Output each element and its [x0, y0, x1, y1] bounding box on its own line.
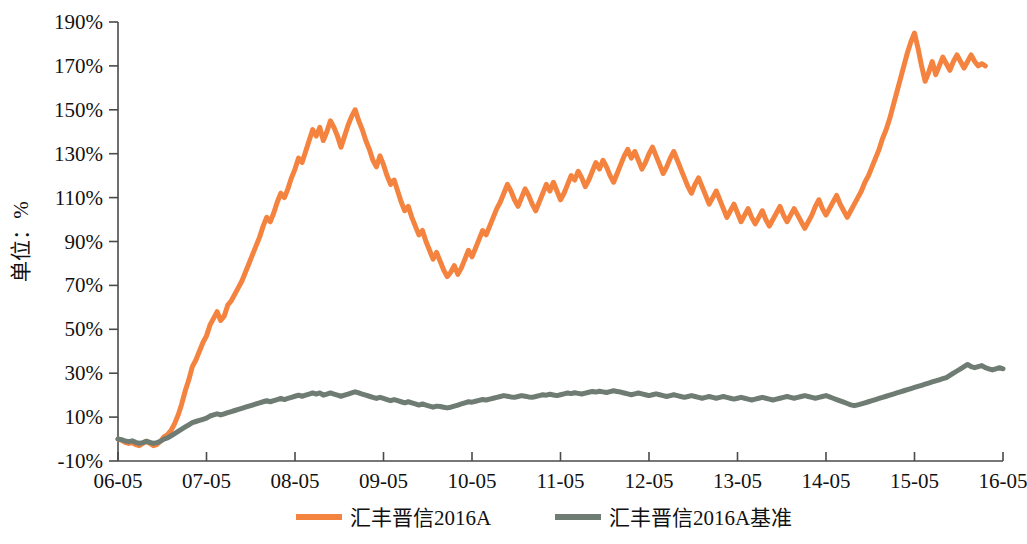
x-axis-ticks: 06-0507-0508-0509-0510-0511-0512-0513-05… [94, 452, 1027, 493]
x-tick-label: 16-05 [979, 469, 1027, 493]
y-tick-label: 190% [54, 10, 103, 34]
series-layer [118, 33, 1003, 446]
series-line-fund [118, 33, 985, 446]
chart-legend: 汇丰晋信2016A汇丰晋信2016A基准 [296, 506, 792, 530]
legend-label-fund[interactable]: 汇丰晋信2016A [350, 506, 492, 530]
y-axis-group: -10%10%30%50%70%90%110%130%150%170%190% [54, 10, 118, 473]
x-tick-label: 14-05 [802, 469, 851, 493]
series-line-benchmark [118, 364, 1003, 443]
y-tick-label: 150% [54, 98, 103, 122]
y-axis-title-group: 单位：% [9, 201, 33, 282]
y-axis-ticks: -10%10%30%50%70%90%110%130%150%170%190% [54, 10, 118, 473]
x-tick-label: 08-05 [271, 469, 320, 493]
x-tick-label: 13-05 [713, 469, 762, 493]
x-tick-label: 06-05 [94, 469, 143, 493]
y-tick-label: 130% [54, 142, 103, 166]
legend-label-benchmark[interactable]: 汇丰晋信2016A基准 [609, 506, 792, 530]
y-tick-label: 50% [65, 317, 104, 341]
x-axis-group: 06-0507-0508-0509-0510-0511-0512-0513-05… [94, 452, 1027, 493]
x-tick-label: 07-05 [182, 469, 231, 493]
y-tick-label: 70% [65, 273, 104, 297]
x-tick-label: 11-05 [536, 469, 584, 493]
y-tick-label: 90% [65, 230, 104, 254]
y-tick-label: 30% [65, 361, 104, 385]
x-tick-label: 10-05 [448, 469, 497, 493]
x-tick-label: 12-05 [625, 469, 674, 493]
y-axis-title: 单位：% [9, 201, 33, 282]
x-tick-label: 15-05 [890, 469, 939, 493]
y-tick-label: 110% [55, 186, 103, 210]
y-tick-label: 10% [65, 405, 104, 429]
x-tick-label: 09-05 [359, 469, 408, 493]
chart-svg: -10%10%30%50%70%90%110%130%150%170%190% … [0, 0, 1027, 544]
y-tick-label: 170% [54, 54, 103, 78]
performance-line-chart: -10%10%30%50%70%90%110%130%150%170%190% … [0, 0, 1027, 544]
